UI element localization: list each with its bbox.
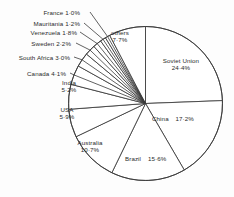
slice-label-india: India 5·2%: [54, 79, 84, 94]
slice-name-others: others: [104, 29, 136, 36]
slice-pct-venezuela: 1·8%: [62, 29, 77, 36]
slice-label-others: others 7·7%: [104, 29, 136, 44]
slice-pct-india: 5·2%: [54, 86, 84, 93]
slice-pct-australia: 10·7%: [68, 146, 112, 153]
slice-name-venezuela: Venezuela: [31, 29, 61, 36]
slice-name-south-africa: South Africa: [19, 54, 54, 61]
slice-label-brazil: Brazil 15·6%: [125, 155, 166, 162]
slice-pct-soviet-union: 24·4%: [154, 64, 208, 71]
slice-pct-others: 7·7%: [104, 36, 136, 43]
slice-label-venezuela: Venezuela 1·8%: [0, 29, 77, 36]
slice-name-soviet-union: Soviet Union: [154, 57, 208, 64]
slice-label-sweden: Sweden 2·2%: [0, 40, 71, 47]
slice-pct-canada: 4·1%: [51, 70, 66, 77]
slice-pct-south-africa: 3·0%: [55, 54, 70, 61]
slice-label-china: China 17·2%: [152, 115, 194, 122]
slice-name-canada: Canada: [27, 70, 49, 77]
slice-pct-mauritania: 1·2%: [65, 20, 80, 27]
slice-name-france: France: [43, 9, 63, 16]
slice-name-mauritania: Mauritania: [33, 20, 63, 27]
slice-pct-brazil: 15·6%: [148, 155, 166, 162]
slice-label-mauritania: Mauritania 1·2%: [0, 20, 80, 27]
slice-name-brazil: Brazil: [125, 155, 141, 162]
slice-label-canada: Canada 4·1%: [0, 70, 66, 77]
slice-name-sweden: Sweden: [31, 40, 54, 47]
slice-name-china: China: [152, 115, 169, 122]
slice-name-australia: Australia: [68, 139, 112, 146]
pie-chart: France 1·0% Mauritania 1·2% Venezuela 1·…: [0, 0, 234, 197]
slice-label-soviet-union: Soviet Union 24·4%: [154, 57, 208, 72]
slice-label-usa: USA 5·9%: [52, 106, 82, 121]
slice-pct-france: 1·0%: [65, 9, 80, 16]
slice-label-australia: Australia 10·7%: [68, 139, 112, 154]
slice-label-south-africa: South Africa 3·0%: [0, 54, 70, 61]
slice-pct-china: 17·2%: [176, 115, 194, 122]
slice-name-usa: USA: [52, 106, 82, 113]
slice-pct-usa: 5·9%: [52, 113, 82, 120]
slice-label-france: France 1·0%: [6, 9, 80, 16]
slice-name-india: India: [54, 79, 84, 86]
slice-pct-sweden: 2·2%: [56, 40, 71, 47]
